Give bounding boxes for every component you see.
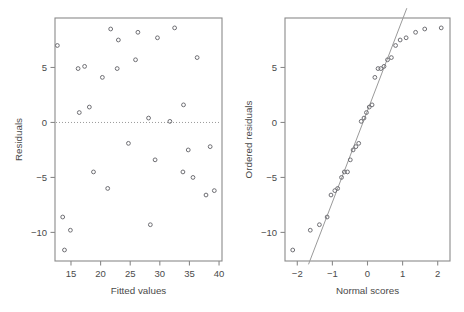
x-axis-title-right: Normal scores: [336, 285, 399, 296]
data-point: [148, 223, 152, 227]
data-point: [127, 141, 131, 145]
x-tick-label-left-1: 20: [95, 268, 106, 279]
data-point: [156, 36, 160, 40]
y-tick-label-right-2: −5: [266, 172, 277, 183]
data-point: [106, 187, 110, 191]
y-tick-label-right-3: −10: [261, 227, 277, 238]
data-point: [61, 215, 65, 219]
data-point: [168, 119, 172, 123]
data-point: [373, 75, 377, 79]
plot-frame-left: [55, 18, 222, 261]
data-point: [116, 38, 120, 42]
data-point: [191, 176, 195, 180]
data-point: [404, 36, 408, 40]
data-point: [76, 67, 80, 71]
data-point: [439, 26, 443, 30]
x-axis-title-left: Fitted values: [111, 285, 167, 296]
x-tick-label-left-5: 40: [214, 268, 225, 279]
y-tick-label-left-0: 5: [42, 62, 47, 73]
x-tick-label-left-2: 25: [125, 268, 136, 279]
data-point: [186, 148, 190, 152]
x-tick-label-right-2: 0: [365, 268, 370, 279]
panel-right: −2−101250−5−10Normal scoresOrdered resid…: [243, 8, 450, 296]
plot-canvas: 15202530354050−5−10Fitted valuesResidual…: [0, 0, 464, 312]
data-point: [77, 111, 81, 115]
data-point: [389, 56, 393, 60]
x-tick-label-left-4: 35: [184, 268, 195, 279]
data-point: [173, 26, 177, 30]
data-point: [291, 248, 295, 252]
diagnostic-figure: 15202530354050−5−10Fitted valuesResidual…: [0, 0, 464, 312]
data-point: [100, 75, 104, 79]
x-tick-label-right-0: −2: [292, 268, 303, 279]
y-tick-label-left-1: 0: [42, 117, 47, 128]
data-point: [354, 145, 358, 149]
y-axis-title-right: Ordered residuals: [243, 100, 254, 178]
y-tick-label-right-0: 5: [272, 62, 277, 73]
data-point: [115, 67, 119, 71]
data-point: [394, 44, 398, 48]
y-tick-label-right-1: 0: [272, 117, 277, 128]
y-tick-label-left-3: −10: [31, 227, 47, 238]
data-point: [208, 145, 212, 149]
data-point: [308, 228, 312, 232]
data-point: [181, 170, 185, 174]
data-point: [195, 56, 199, 60]
x-tick-label-left-0: 15: [66, 268, 77, 279]
data-point: [423, 27, 427, 31]
data-point: [153, 158, 157, 162]
data-point: [370, 103, 374, 107]
data-point: [398, 38, 402, 42]
data-point: [136, 30, 140, 34]
data-point: [147, 116, 151, 120]
x-tick-label-right-1: −1: [327, 268, 338, 279]
plot-frame-right: [285, 18, 450, 261]
data-point: [318, 223, 322, 227]
qq-fit-line: [309, 8, 407, 264]
x-tick-label-left-3: 30: [155, 268, 166, 279]
data-point: [414, 30, 418, 34]
x-tick-label-right-3: 1: [400, 268, 405, 279]
data-point: [83, 64, 87, 68]
data-point: [182, 103, 186, 107]
data-point: [134, 58, 138, 62]
x-tick-label-right-4: 2: [435, 268, 440, 279]
data-point: [92, 170, 96, 174]
panel-left: 15202530354050−5−10Fitted valuesResidual…: [13, 18, 224, 296]
data-point: [55, 44, 59, 48]
data-point: [68, 228, 72, 232]
data-point: [212, 189, 216, 193]
data-point: [357, 141, 361, 145]
data-point: [109, 27, 113, 31]
data-point: [329, 193, 333, 197]
data-point: [359, 119, 363, 123]
data-point: [204, 193, 208, 197]
data-point: [63, 248, 67, 252]
data-point: [87, 105, 91, 109]
y-tick-label-left-2: −5: [36, 172, 47, 183]
y-axis-title-left: Residuals: [13, 118, 24, 161]
